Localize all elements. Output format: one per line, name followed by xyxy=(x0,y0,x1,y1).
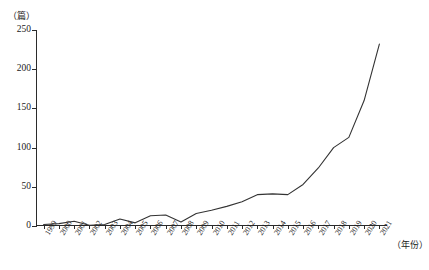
y-tick-mark xyxy=(32,226,37,227)
data-series-line xyxy=(36,30,387,226)
y-tick-label: 200 xyxy=(17,63,31,74)
x-axis-unit-label: （年份） xyxy=(392,238,428,251)
y-tick-label: 50 xyxy=(22,181,32,192)
y-tick-label: 0 xyxy=(26,220,31,231)
y-tick-label: 250 xyxy=(17,24,31,35)
chart-figure: （篇） 050100150200250 19992000200120022003… xyxy=(0,0,429,270)
y-axis-unit-label: （篇） xyxy=(8,9,35,22)
plot-area: 050100150200250 199920002001200220032004… xyxy=(36,30,387,226)
y-tick-label: 100 xyxy=(17,142,31,153)
y-tick-label: 150 xyxy=(17,102,31,113)
